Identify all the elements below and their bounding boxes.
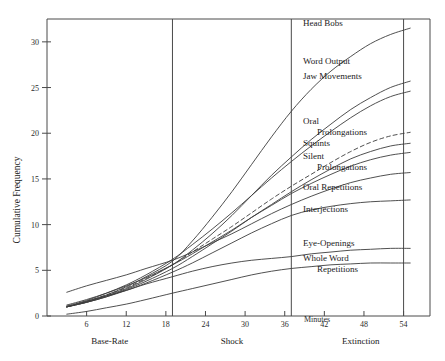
x-tick-label-30: 30 [241,320,249,329]
y-tick-label-30: 30 [31,38,39,47]
series-label-eye-openings: Eye-Openings [303,238,355,248]
y-tick-label-10: 10 [31,221,39,230]
series-label-head-bobs: Head Bobs [303,18,343,28]
y-tick-label-20: 20 [31,129,39,138]
x-tick-label-12: 12 [122,320,130,329]
cumulative-frequency-chart: 61218243036424854 051015202530 Head Bobs… [0,0,445,361]
x-tick-label-36: 36 [281,320,289,329]
x-axis-unit-label: Minutes [304,315,330,324]
x-tick-label-24: 24 [201,320,209,329]
y-tick-label-15: 15 [31,175,39,184]
phase-label-shock: Shock [221,336,244,346]
y-tick-label-0: 0 [35,312,39,321]
series-label-word-output: Word Output [303,56,351,66]
phase-label-extinction: Extinction [342,336,380,346]
x-tick-label-18: 18 [162,320,170,329]
series-label-oral-repetitions: Oral Repetitions [303,182,363,192]
y-axis-title: Cumulative Frequency [12,156,22,243]
x-tick-label-6: 6 [85,320,89,329]
x-tick-label-54: 54 [400,320,408,329]
x-tick-label-48: 48 [360,320,368,329]
y-tick-label-5: 5 [35,266,39,275]
y-tick-label-25: 25 [31,84,39,93]
chart-canvas: 61218243036424854 051015202530 Head Bobs… [0,0,445,361]
phase-label-base-rate: Base-Rate [91,336,128,346]
series-label-jaw-movements: Jaw Movements [303,71,362,81]
series-label-squints: Squints [303,138,331,148]
series-label-interjections: Interjections [303,204,348,214]
